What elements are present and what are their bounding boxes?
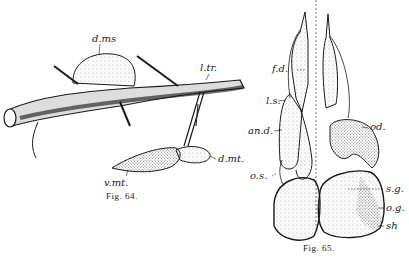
label-ltr: l.tr.	[200, 63, 217, 73]
label-sg: s.g.	[386, 184, 404, 194]
drawing-layer	[0, 0, 409, 257]
illustration-plate: d.ms l.tr. d.mt. v.mt. Fig. 64. f.d. l.s…	[0, 0, 409, 257]
label-od: od.	[370, 122, 386, 132]
label-dmt: d.mt.	[218, 154, 244, 164]
label-vmt: v.mt.	[104, 178, 128, 188]
label-fd: f.d.	[272, 64, 288, 74]
label-dms: d.ms	[92, 34, 116, 44]
label-ls: l.s.	[266, 96, 281, 106]
label-and: an.d.	[248, 126, 273, 136]
label-og: o.g.	[386, 203, 405, 213]
fig65-caption: Fig. 65.	[303, 243, 335, 253]
fig65-drawing	[272, 0, 384, 240]
fig64-caption: Fig. 64.	[106, 191, 138, 201]
label-os: o.s.	[250, 171, 267, 181]
label-sh: sh	[386, 221, 398, 231]
